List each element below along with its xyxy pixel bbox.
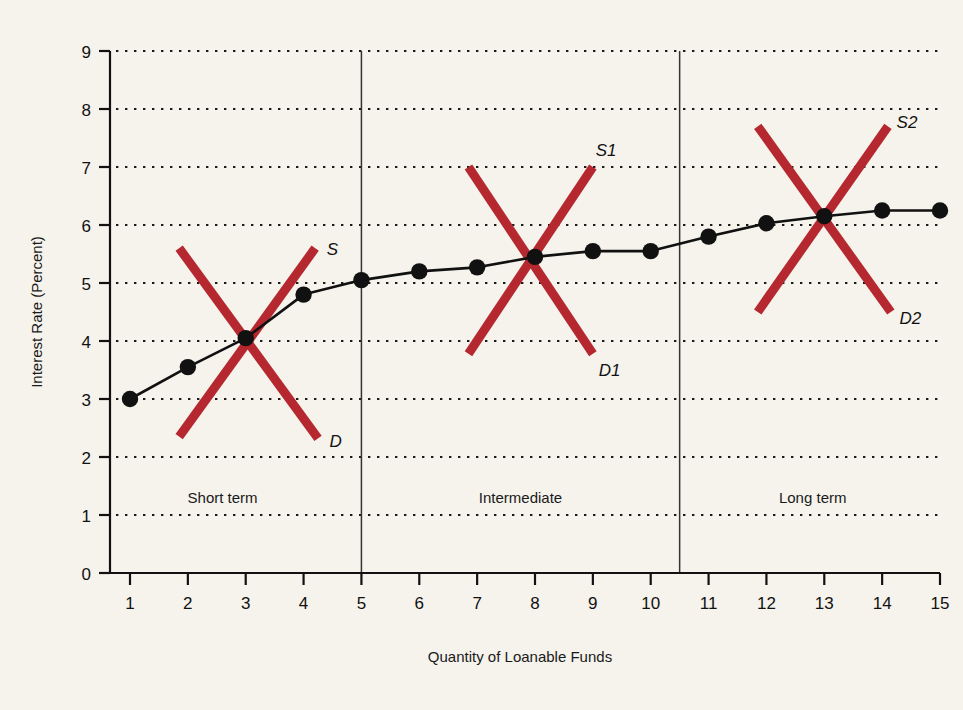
y-tick-label-2: 2 [82, 449, 91, 468]
y-tick-label-4: 4 [82, 333, 91, 352]
data-point-marker [469, 259, 485, 275]
y-tick-label-5: 5 [82, 275, 91, 294]
data-point-marker [353, 272, 369, 288]
x-tick-label-4: 4 [299, 594, 308, 613]
supply-label-S: S [327, 240, 339, 259]
yield-curve-chart: 0123456789 123456789101112131415 SDS1D1S… [0, 0, 963, 710]
x-tick-label-5: 5 [357, 594, 366, 613]
data-point-marker [122, 391, 138, 407]
region-label-long-term: Long term [779, 489, 847, 506]
x-tick-label-7: 7 [472, 594, 481, 613]
series-line-0 [130, 211, 940, 400]
data-point-marker [758, 215, 774, 231]
x-axis-ticks: 123456789101112131415 [125, 573, 949, 613]
chart-canvas: 0123456789 123456789101112131415 SDS1D1S… [0, 0, 963, 710]
data-point-marker [238, 330, 254, 346]
x-tick-label-13: 13 [815, 594, 834, 613]
data-point-marker [700, 228, 716, 244]
y-tick-label-7: 7 [82, 159, 91, 178]
sd-cross-1: SD [179, 240, 342, 450]
y-axis-title: Interest Rate (Percent) [28, 236, 45, 388]
yield-curve-series [122, 202, 948, 407]
x-tick-label-10: 10 [641, 594, 660, 613]
region-label-intermediate: Intermediate [479, 489, 562, 506]
y-tick-label-8: 8 [82, 101, 91, 120]
x-tick-label-6: 6 [415, 594, 424, 613]
demand-label-D: D [330, 432, 342, 451]
x-tick-label-3: 3 [241, 594, 250, 613]
x-axis-title: Quantity of Loanable Funds [428, 648, 612, 665]
y-tick-label-1: 1 [82, 507, 91, 526]
supply-label-S2: S2 [897, 113, 918, 132]
x-tick-label-2: 2 [183, 594, 192, 613]
y-tick-label-6: 6 [82, 217, 91, 236]
data-point-marker [411, 263, 427, 279]
x-tick-label-9: 9 [588, 594, 597, 613]
demand-label-D2: D2 [900, 309, 922, 328]
demand-label-D1: D1 [599, 361, 621, 380]
gridlines [116, 51, 940, 515]
data-point-marker [585, 243, 601, 259]
y-tick-label-9: 9 [82, 43, 91, 62]
data-point-marker [816, 208, 832, 224]
region-labels: Short termIntermediateLong term [188, 489, 847, 506]
x-tick-label-8: 8 [530, 594, 539, 613]
data-point-marker [295, 286, 311, 302]
region-label-short-term: Short term [188, 489, 258, 506]
x-tick-label-11: 11 [700, 594, 718, 613]
data-point-marker [180, 359, 196, 375]
x-tick-label-14: 14 [873, 594, 892, 613]
data-point-marker [874, 202, 890, 218]
data-point-marker [527, 249, 543, 265]
x-tick-label-15: 15 [931, 594, 950, 613]
x-tick-label-1: 1 [125, 594, 134, 613]
x-tick-label-12: 12 [757, 594, 776, 613]
y-tick-label-0: 0 [82, 565, 91, 584]
data-point-marker [643, 243, 659, 259]
supply-label-S1: S1 [596, 141, 617, 160]
data-point-marker [932, 202, 948, 218]
sd-cross-2: S1D1 [468, 141, 620, 380]
y-axis-ticks: 0123456789 [82, 43, 110, 584]
y-tick-label-3: 3 [82, 391, 91, 410]
